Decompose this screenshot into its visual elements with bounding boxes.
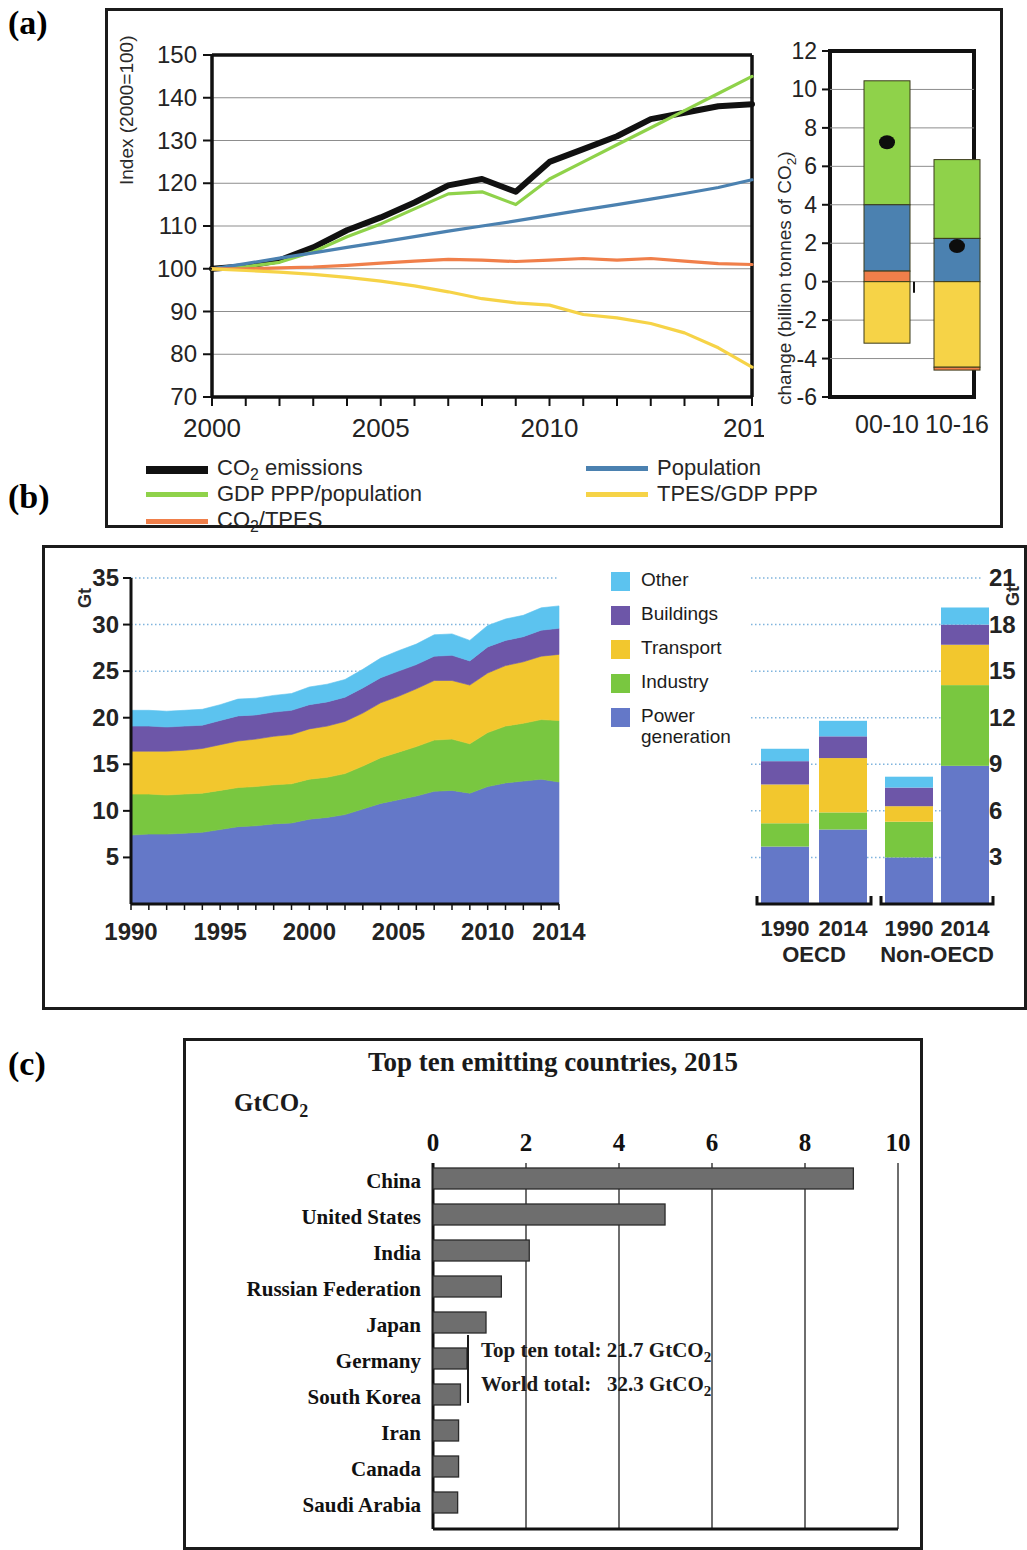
panel-b-area-svg: 3530252015105199019952000200520102014 [59,556,599,976]
legend-label-buildings: Buildings [641,604,718,625]
svg-text:United States: United States [301,1205,421,1229]
top-ten-total-label: Top ten total: [481,1338,602,1362]
panel-b-legend: Other Buildings Transport Industry Power… [611,570,761,760]
top-ten-total-value: 21.7 GtCO2 [607,1338,711,1362]
panel-label-b: (b) [8,478,50,516]
svg-text:2000: 2000 [183,413,241,443]
svg-text:Russian Federation: Russian Federation [247,1277,422,1301]
panel-a-bar-ylabel: change (billion tonnes of CO2) [774,151,799,405]
svg-text:2: 2 [520,1133,533,1156]
svg-text:2014: 2014 [941,916,991,941]
legend-swatch-other [611,572,630,591]
svg-text:2: 2 [804,230,817,256]
svg-text:5: 5 [106,843,119,870]
legend-swatch-co2-tpes [146,519,208,524]
legend-label-population: Population [657,455,761,481]
legend-label-power-generation: Power generation [641,706,737,747]
svg-text:2000: 2000 [283,918,336,945]
svg-text:2010: 2010 [461,918,514,945]
panel-a-line-chart: Index (2000=100) 15014013012011010090807… [134,25,764,445]
legend-item-co2-tpes: CO2/TPES [146,507,322,536]
svg-text:140: 140 [157,84,197,111]
legend-swatch-industry [611,674,630,693]
legend-item-co2-emissions: CO2 emissions [146,455,363,484]
panel-c-totals-box: Top ten total: 21.7 GtCO2World total: 32… [467,1335,711,1403]
svg-text:10: 10 [886,1133,911,1156]
svg-text:15: 15 [92,750,119,777]
panel-b-bar-svg: 211815129631990201419902014OECDNon-OECD [745,556,1017,976]
svg-text:2005: 2005 [372,918,425,945]
legend-item-power-generation: Power generation [611,706,761,747]
svg-text:OECD: OECD [782,942,846,967]
legend-swatch-buildings [611,606,630,625]
svg-text:150: 150 [157,41,197,68]
legend-label-co2-tpes: CO2/TPES [217,507,322,536]
legend-label-tpes-gdp-ppp: TPES/GDP PPP [657,481,818,507]
svg-text:10: 10 [791,76,817,102]
world-total-row: World total: 32.3 GtCO2 [481,1369,711,1403]
svg-text:2014: 2014 [819,916,869,941]
svg-text:1995: 1995 [193,918,246,945]
panel-b-unit-right: Gt [1003,586,1024,606]
svg-text:Iran: Iran [381,1421,421,1445]
svg-text:1990: 1990 [885,916,934,941]
legend-item-tpes-gdp-ppp: TPES/GDP PPP [586,481,818,507]
svg-text:100: 100 [157,255,197,282]
legend-item-population: Population [586,455,761,481]
svg-text:15: 15 [989,657,1016,684]
legend-label-other: Other [641,570,689,591]
legend-swatch-gdp-ppp-population [146,492,208,497]
panel-a-drivers: Index (2000=100) 15014013012011010090807… [105,8,1003,528]
panel-a-line-ylabel: Index (2000=100) [116,36,138,185]
svg-text:South Korea: South Korea [308,1385,422,1409]
svg-text:4: 4 [804,192,817,218]
panel-a-line-svg: 1501401301201101009080702000200520102016 [134,25,764,445]
panel-c-top-emitters: Top ten emitting countries, 2015 GtCO2 0… [183,1038,923,1550]
panel-label-a: (a) [8,4,48,42]
top-ten-total-row: Top ten total: 21.7 GtCO2 [481,1335,711,1369]
svg-text:35: 35 [92,564,119,591]
legend-item-other: Other [611,570,761,591]
svg-text:80: 80 [170,340,197,367]
svg-text:00-10: 00-10 [855,410,919,438]
svg-text:6: 6 [989,797,1002,824]
svg-text:4: 4 [613,1133,626,1156]
svg-text:18: 18 [989,611,1016,638]
svg-text:25: 25 [92,657,119,684]
svg-text:6: 6 [804,153,817,179]
svg-text:0: 0 [427,1133,440,1156]
svg-text:1990: 1990 [104,918,157,945]
svg-text:70: 70 [170,383,197,410]
svg-text:12: 12 [989,704,1016,731]
svg-text:-6: -6 [797,384,817,410]
svg-text:0: 0 [804,269,817,295]
world-total-value: 32.3 GtCO2 [607,1372,711,1396]
svg-text:Canada: Canada [351,1457,422,1481]
svg-text:Saudi Arabia: Saudi Arabia [303,1493,422,1517]
legend-label-industry: Industry [641,672,709,693]
svg-text:120: 120 [157,169,197,196]
svg-text:30: 30 [92,611,119,638]
panel-a-legend: CO2 emissions Population GDP PPP/populat… [128,451,984,525]
svg-text:8: 8 [799,1133,812,1156]
svg-text:Germany: Germany [336,1349,422,1373]
svg-text:2005: 2005 [352,413,410,443]
panel-c-unit-label: GtCO2 [234,1089,308,1122]
svg-text:Japan: Japan [366,1313,421,1337]
svg-text:10-16: 10-16 [925,410,989,438]
svg-text:3: 3 [989,843,1002,870]
legend-swatch-power-generation [611,708,630,727]
svg-text:2016: 2016 [723,413,764,443]
legend-item-industry: Industry [611,672,761,693]
svg-text:20: 20 [92,704,119,731]
panel-label-c: (c) [8,1045,46,1083]
legend-swatch-population [586,466,648,471]
svg-text:2010: 2010 [521,413,579,443]
svg-text:8: 8 [804,115,817,141]
legend-swatch-transport [611,640,630,659]
svg-text:12: 12 [791,38,817,64]
svg-text:90: 90 [170,298,197,325]
svg-text:9: 9 [989,750,1002,777]
svg-text:-2: -2 [797,307,817,333]
panel-c-title: Top ten emitting countries, 2015 [186,1047,920,1078]
